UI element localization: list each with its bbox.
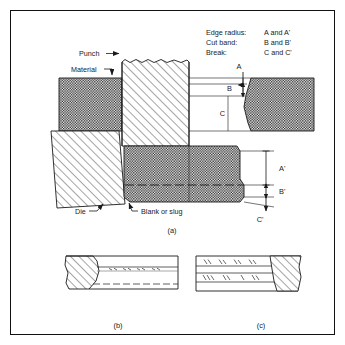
legend-term-cut-band: Cut band: bbox=[206, 38, 237, 47]
callout-blank-or-slug: Blank or slug bbox=[141, 207, 183, 216]
panel-c-flow-marks-lower bbox=[203, 275, 259, 280]
panel-c: (c) bbox=[196, 256, 301, 330]
legend-value-cut-band: B and B' bbox=[264, 38, 292, 47]
panel-a-caption: (a) bbox=[167, 226, 176, 235]
panel-c-flow-marks-upper bbox=[204, 260, 256, 265]
legend-term-break: Break: bbox=[206, 48, 227, 57]
callout-punch: Punch bbox=[79, 49, 99, 58]
panel-c-caption: (c) bbox=[257, 321, 266, 330]
callout-die: Die bbox=[75, 207, 86, 216]
callout-material: Material bbox=[71, 65, 97, 74]
figure-frame: Edge radius: A and A' Cut band: B and B'… bbox=[10, 10, 335, 335]
dim-label-a: A bbox=[237, 62, 242, 71]
panel-b-flow-marks bbox=[109, 268, 160, 270]
figure-page: Edge radius: A and A' Cut band: B and B'… bbox=[0, 0, 345, 345]
dim-label-b-prime: B' bbox=[279, 187, 286, 196]
panel-c-tool bbox=[270, 256, 301, 291]
dim-label-a-prime: A' bbox=[279, 164, 286, 173]
legend: Edge radius: A and A' Cut band: B and B'… bbox=[206, 28, 292, 57]
dim-label-c: C bbox=[220, 109, 226, 118]
legend-value-edge-radius: A and A' bbox=[264, 28, 291, 37]
technical-diagram: Edge radius: A and A' Cut band: B and B'… bbox=[11, 11, 334, 334]
dim-label-c-prime: C' bbox=[257, 215, 264, 224]
blank-or-slug bbox=[124, 146, 244, 202]
leader-blank bbox=[129, 203, 138, 211]
legend-value-break: C and C' bbox=[264, 48, 292, 57]
leader-material bbox=[104, 69, 112, 75]
material-upper-right bbox=[244, 78, 314, 131]
legend-term-edge-radius: Edge radius: bbox=[206, 28, 246, 37]
dim-label-b: B bbox=[227, 84, 232, 93]
panel-b: (b) bbox=[65, 256, 178, 330]
dimension-lines-lower bbox=[240, 151, 274, 207]
material-upper-left bbox=[59, 78, 122, 131]
panel-a: Edge radius: A and A' Cut band: B and B'… bbox=[51, 28, 314, 235]
punch-body bbox=[122, 60, 189, 147]
die-body bbox=[51, 131, 125, 208]
panel-b-caption: (b) bbox=[113, 321, 122, 330]
